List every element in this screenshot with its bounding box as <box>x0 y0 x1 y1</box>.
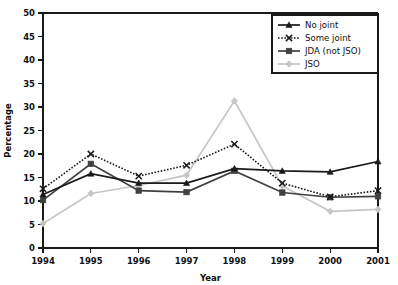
line-chart: 05101520253035404550 1994199519961997199… <box>0 0 398 285</box>
x-axis-title: Year <box>199 273 222 283</box>
y-axis-ticks: 05101520253035404550 <box>23 8 43 253</box>
data-point-marker <box>279 190 285 196</box>
x-tick-label: 2000 <box>318 256 342 266</box>
data-point-marker <box>231 141 237 147</box>
y-tick-label: 5 <box>29 220 35 230</box>
legend-label-4: JSO <box>304 59 320 69</box>
y-tick-label: 25 <box>23 126 35 136</box>
legend-label-1: No joint <box>305 20 339 30</box>
data-point-marker <box>375 206 381 213</box>
y-tick-label: 20 <box>23 149 35 159</box>
y-tick-label: 40 <box>23 55 35 65</box>
x-tick-label: 1999 <box>270 256 294 266</box>
x-tick-label: 1996 <box>127 256 151 266</box>
data-point-marker <box>88 161 94 167</box>
data-point-marker <box>327 208 333 215</box>
y-tick-label: 15 <box>23 173 35 183</box>
data-point-marker <box>40 197 46 203</box>
x-tick-label: 1998 <box>223 256 247 266</box>
y-tick-label: 45 <box>23 32 35 42</box>
data-point-marker <box>183 162 189 168</box>
x-axis-ticks: 19941995199619971998199920002001 <box>31 248 390 266</box>
data-series-layer <box>40 97 381 226</box>
y-axis-title: Percentage <box>3 103 13 158</box>
chart-legend: No jointSome jointJDA (not JSO)JSO <box>272 15 378 73</box>
y-tick-label: 30 <box>23 102 35 112</box>
chart-container: 05101520253035404550 1994199519961997199… <box>0 0 398 285</box>
x-tick-label: 2001 <box>366 256 390 266</box>
data-point-marker <box>286 48 292 54</box>
data-point-marker <box>88 190 94 197</box>
data-point-marker <box>184 189 190 195</box>
legend-label-2: Some joint <box>305 33 352 43</box>
data-point-marker <box>40 220 46 227</box>
y-tick-label: 35 <box>23 79 35 89</box>
y-tick-label: 50 <box>23 8 35 18</box>
data-point-marker <box>88 151 94 157</box>
y-tick-label: 10 <box>23 196 35 206</box>
data-point-marker <box>136 188 142 194</box>
legend-label-3: JDA (not JSO) <box>304 46 361 56</box>
x-tick-label: 1995 <box>79 256 103 266</box>
y-tick-label: 0 <box>29 243 35 253</box>
x-tick-label: 1997 <box>175 256 199 266</box>
x-tick-label: 1994 <box>31 256 55 266</box>
data-point-marker <box>375 194 381 200</box>
data-point-marker <box>136 173 142 179</box>
